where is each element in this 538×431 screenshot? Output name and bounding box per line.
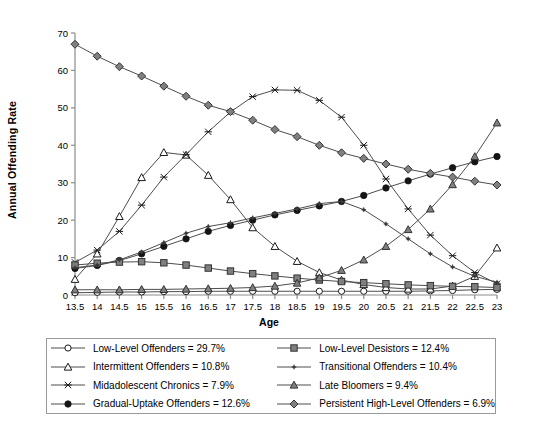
x-tick-label: 21 <box>403 301 414 312</box>
marker-gray-triangle <box>493 119 501 126</box>
legend-entry: Persistent High-Level Offenders = 6.9% <box>273 395 495 414</box>
legend-entry: Midadolescent Chronics = 7.9% <box>47 376 273 395</box>
marker-gray-square <box>338 278 344 284</box>
x-tick-label: 16.5 <box>199 301 218 312</box>
x-tick-label: 20.5 <box>377 301 396 312</box>
marker-gray-diamond <box>338 149 346 157</box>
series-low-level-desistors <box>72 258 500 290</box>
legend-entry: Low-Level Offenders = 29.7% <box>47 339 273 358</box>
x-tick-label: 22.5 <box>466 301 485 312</box>
marker-filled-circle <box>449 165 455 171</box>
legend-marker-gray-triangle <box>275 378 313 392</box>
marker-gray-diamond <box>71 40 79 48</box>
legend-entry: Gradual-Uptake Offenders = 12.6% <box>47 395 273 414</box>
y-tick-label: 70 <box>57 28 68 39</box>
legend-row: Intermittent Offenders = 10.8%Transition… <box>47 358 495 377</box>
legend-marker-x-cross <box>49 378 87 392</box>
marker-gray-diamond <box>160 82 168 90</box>
chart-legend: Low-Level Offenders = 29.7%Low-Level Des… <box>46 338 496 414</box>
marker-gray-diamond <box>93 52 101 60</box>
legend-label: Gradual-Uptake Offenders = 12.6% <box>93 398 250 409</box>
y-tick-label: 30 <box>57 177 68 188</box>
legend-row: Low-Level Offenders = 29.7%Low-Level Des… <box>47 339 495 358</box>
marker-gray-diamond <box>138 72 146 80</box>
marker-open-circle <box>361 288 367 294</box>
x-tick-label: 19 <box>314 301 325 312</box>
legend-marker-open-circle <box>49 341 87 355</box>
legend-marker-gray-diamond <box>275 397 313 411</box>
x-tick-label: 13.5 <box>66 301 85 312</box>
series-intermittent-offenders <box>71 149 501 293</box>
legend-entry: Late Bloomers = 9.4% <box>273 376 495 395</box>
legend-entry: Intermittent Offenders = 10.8% <box>47 358 273 377</box>
marker-gray-diamond <box>404 165 412 173</box>
y-tick-label: 40 <box>57 140 68 151</box>
marker-open-triangle <box>293 258 301 265</box>
legend-table: Low-Level Offenders = 29.7%Low-Level Des… <box>47 339 495 413</box>
y-tick-label: 50 <box>57 102 68 113</box>
marker-gray-square <box>138 258 144 264</box>
marker-gray-diamond <box>293 133 301 141</box>
marker-gray-triangle <box>471 153 479 160</box>
marker-gray-diamond <box>493 181 501 189</box>
series-line <box>75 44 497 185</box>
marker-open-triangle <box>160 149 168 156</box>
y-tick-label: 10 <box>57 252 68 263</box>
marker-gray-triangle <box>360 256 368 263</box>
marker-open-circle <box>316 288 322 294</box>
x-tick-label: 20 <box>358 301 369 312</box>
series-persistent-high-level-offenders <box>71 40 501 189</box>
marker-gray-square <box>361 279 367 285</box>
marker-gray-diamond <box>449 173 457 181</box>
marker-gray-square <box>205 265 211 271</box>
x-tick-label: 15 <box>136 301 147 312</box>
marker-filled-circle <box>361 192 367 198</box>
marker-gray-diamond <box>204 101 212 109</box>
marker-open-triangle <box>493 244 501 251</box>
marker-filled-circle <box>494 153 500 159</box>
y-tick-label: 20 <box>57 215 68 226</box>
marker-gray-square <box>449 283 455 289</box>
legend-label: Low-Level Desistors = 12.4% <box>319 343 449 354</box>
legend-label: Persistent High-Level Offenders = 6.9% <box>319 398 495 409</box>
marker-gray-diamond <box>315 141 323 149</box>
y-tick-label: 60 <box>57 65 68 76</box>
marker-gray-square <box>405 282 411 288</box>
legend-label: Low-Level Offenders = 29.7% <box>93 343 225 354</box>
x-tick-label: 14 <box>92 301 103 312</box>
legend-label: Midadolescent Chronics = 7.9% <box>93 380 234 391</box>
legend-row: Gradual-Uptake Offenders = 12.6%Persiste… <box>47 395 495 414</box>
x-tick-label: 15.5 <box>155 301 174 312</box>
x-tick-label: 17 <box>225 301 236 312</box>
marker-open-circle <box>65 345 71 351</box>
marker-gray-triangle <box>382 243 390 250</box>
legend-label: Late Bloomers = 9.4% <box>319 380 418 391</box>
marker-open-triangle <box>116 213 124 220</box>
legend-label: Intermittent Offenders = 10.8% <box>93 361 229 372</box>
marker-open-circle <box>294 288 300 294</box>
marker-gray-diamond <box>382 160 390 168</box>
plot-area: 01020304050607013.51414.51515.51616.5171… <box>0 0 538 340</box>
legend-label: Transitional Offenders = 10.4% <box>319 361 457 372</box>
marker-gray-diamond <box>471 177 479 185</box>
series-late-bloomers <box>71 119 501 293</box>
marker-gray-square <box>494 284 500 290</box>
marker-filled-circle <box>205 228 211 234</box>
x-tick-label: 14.5 <box>110 301 129 312</box>
legend-marker-small-asterisk <box>275 360 313 374</box>
marker-gray-square <box>272 273 278 279</box>
marker-gray-diamond <box>271 126 279 134</box>
marker-gray-square <box>427 282 433 288</box>
x-tick-label: 18.5 <box>288 301 307 312</box>
legend-marker-open-triangle <box>49 360 87 374</box>
line-chart-svg: 01020304050607013.51414.51515.51616.5171… <box>0 0 538 340</box>
x-tick-label: 18 <box>270 301 281 312</box>
marker-gray-square <box>291 345 297 351</box>
marker-filled-circle <box>383 185 389 191</box>
marker-filled-circle <box>405 178 411 184</box>
marker-filled-circle <box>65 401 71 407</box>
x-tick-label: 19.5 <box>332 301 351 312</box>
marker-gray-square <box>183 262 189 268</box>
x-axis-title: Age <box>0 316 538 328</box>
marker-gray-square <box>227 268 233 274</box>
